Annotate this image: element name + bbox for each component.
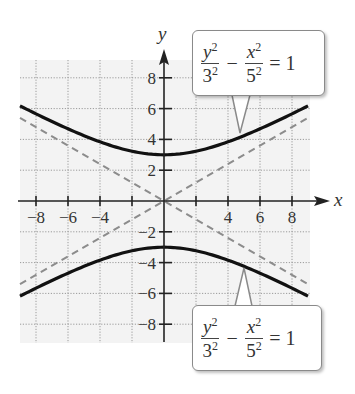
y-tick-label: 2 bbox=[148, 161, 157, 180]
exponent: 2 bbox=[211, 40, 217, 54]
x-tick-label: −8 bbox=[27, 208, 45, 227]
y-tick-label: −6 bbox=[138, 284, 156, 303]
y-tick-label: 4 bbox=[148, 130, 157, 149]
x-tick-label: 6 bbox=[256, 208, 265, 227]
denominator-base: 3 bbox=[202, 340, 212, 361]
x-tick-label: −6 bbox=[59, 208, 77, 227]
lower-equation-callout: y2 32 − x2 52 = 1 bbox=[192, 305, 322, 371]
exponent: 2 bbox=[212, 64, 218, 78]
exponent: 2 bbox=[255, 315, 261, 329]
exponent: 2 bbox=[256, 64, 262, 78]
y-tick-label: 8 bbox=[148, 69, 157, 88]
y-tick-label: −2 bbox=[138, 223, 156, 242]
equals-one: = 1 bbox=[269, 52, 295, 75]
denominator-base: 3 bbox=[202, 65, 212, 86]
numerator-var: x bbox=[247, 41, 255, 62]
x-squared-over-5-squared: x2 52 bbox=[245, 42, 263, 85]
y-squared-over-3-squared: y2 32 bbox=[201, 317, 219, 360]
numerator-var: x bbox=[247, 316, 255, 337]
upper-equation-callout: y2 32 − x2 52 = 1 bbox=[192, 30, 325, 96]
equals-one: = 1 bbox=[269, 327, 295, 350]
denominator-base: 5 bbox=[246, 65, 256, 86]
x-squared-over-5-squared: x2 52 bbox=[245, 317, 263, 360]
x-tick-label: 4 bbox=[224, 208, 233, 227]
exponent: 2 bbox=[211, 315, 217, 329]
y-tick-label: −4 bbox=[138, 254, 157, 273]
y-axis-label: y bbox=[156, 23, 167, 44]
minus-sign: − bbox=[226, 327, 237, 350]
x-tick-label: 8 bbox=[288, 208, 297, 227]
x-axis-label: x bbox=[333, 189, 343, 210]
exponent: 2 bbox=[255, 40, 261, 54]
minus-sign: − bbox=[226, 52, 237, 75]
denominator-base: 5 bbox=[246, 340, 256, 361]
y-squared-over-3-squared: y2 32 bbox=[201, 42, 219, 85]
exponent: 2 bbox=[212, 339, 218, 353]
y-tick-label: −8 bbox=[138, 315, 156, 334]
x-tick-label: −4 bbox=[91, 208, 110, 227]
exponent: 2 bbox=[256, 339, 262, 353]
y-tick-label: 6 bbox=[148, 100, 157, 119]
